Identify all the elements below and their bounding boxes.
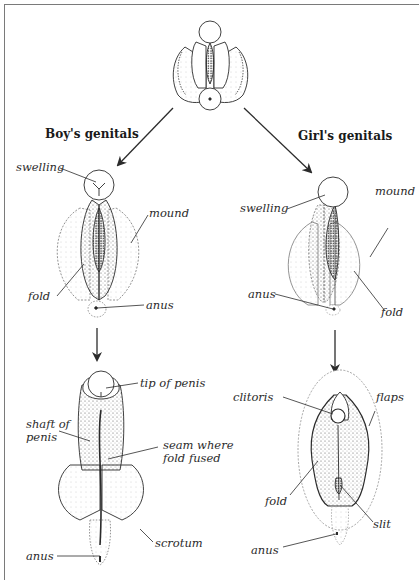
girl-mound-label: mound <box>375 185 415 197</box>
girl-fold-label-stage2: fold <box>265 495 287 507</box>
slit-label: slit <box>373 518 391 530</box>
boy-mound-label: mound <box>149 207 189 219</box>
diagram-artwork <box>0 0 419 580</box>
seam-label-line2: fold fused <box>163 452 221 464</box>
flaps-label: flaps <box>376 391 404 403</box>
scrotum-label: scrotum <box>155 537 203 549</box>
seam-label-line1: seam where <box>163 439 233 451</box>
shaft-of-penis-label-line2: penis <box>26 431 57 443</box>
shaft-of-penis-label-line1: shaft of <box>26 418 70 430</box>
girl-fold-label-stage1: fold <box>381 306 403 318</box>
boy-heading: Boy's genitals <box>45 127 139 141</box>
boy-fold-label: fold <box>28 290 50 302</box>
clitoris-label: clitoris <box>233 391 273 403</box>
girl-stage2-illustration <box>298 370 382 545</box>
boy-stage1-illustration <box>57 170 139 317</box>
boy-anus-label-stage1: anus <box>146 299 174 311</box>
boy-anus-label-stage2: anus <box>26 550 54 562</box>
boy-stage2-illustration <box>59 371 144 565</box>
girl-anus-label-stage1: anus <box>248 288 276 300</box>
boy-swelling-label: swelling <box>16 161 64 173</box>
embryonic-genitals-illustration <box>173 21 247 110</box>
girl-heading: Girl's genitals <box>298 129 392 143</box>
tip-of-penis-label: tip of penis <box>140 377 205 389</box>
girl-swelling-label: swelling <box>240 202 288 214</box>
girl-stage1-illustration <box>288 177 360 315</box>
girl-anus-label-stage2: anus <box>251 544 279 556</box>
